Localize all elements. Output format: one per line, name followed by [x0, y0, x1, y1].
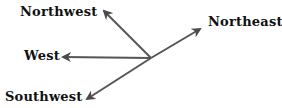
southwest-label: Southwest — [5, 89, 83, 104]
west-arrow — [63, 57, 151, 58]
west-label: West — [24, 48, 60, 63]
northeast-label: Northeast — [208, 14, 282, 29]
northwest-label: Northwest — [20, 4, 97, 19]
direction-diagram: Northwest Northeast West Southwest — [0, 0, 282, 108]
northeast-arrow — [151, 29, 200, 58]
southwest-arrow — [87, 58, 151, 99]
northwest-arrow — [104, 11, 151, 58]
